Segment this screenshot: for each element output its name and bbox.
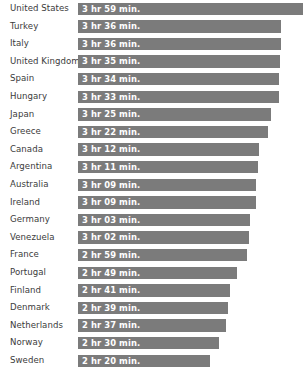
bar-value-label: 2 hr 37 min. [82,319,140,331]
bar-value-label: 3 hr 59 min. [82,3,140,15]
bar-value-label: 3 hr 02 min. [82,231,140,243]
chart-row: Japan3 hr 25 min. [0,106,305,124]
bar-value-label: 3 hr 22 min. [82,126,140,138]
chart-row: Spain3 hr 34 min. [0,70,305,88]
category-label: Sweden [10,352,44,370]
chart-row: Australia3 hr 09 min. [0,176,305,194]
category-label: Norway [10,334,43,352]
chart-row: Finland2 hr 41 min. [0,282,305,300]
bar-value-label: 3 hr 25 min. [82,108,140,120]
category-label: Spain [10,70,34,88]
chart-row: Greece3 hr 22 min. [0,123,305,141]
category-label: Italy [10,35,29,53]
chart-row: Portugal2 hr 49 min. [0,264,305,282]
bar: 3 hr 59 min. [78,3,303,15]
bar: 3 hr 33 min. [78,91,279,103]
bar: 3 hr 34 min. [78,73,279,85]
chart-row: Canada3 hr 12 min. [0,141,305,159]
chart-row: France2 hr 59 min. [0,246,305,264]
bar: 3 hr 12 min. [78,143,259,155]
bar-value-label: 3 hr 35 min. [82,55,140,67]
chart-row: Turkey3 hr 36 min. [0,18,305,36]
category-label: Hungary [10,88,47,106]
bar-track: 3 hr 36 min. [78,20,303,32]
category-label: Portugal [10,264,46,282]
chart-row: Sweden2 hr 20 min. [0,352,305,370]
bar: 3 hr 35 min. [78,55,280,67]
bar-track: 3 hr 22 min. [78,126,303,138]
bar-track: 3 hr 12 min. [78,143,303,155]
bar-value-label: 2 hr 20 min. [82,355,140,367]
bar-value-label: 3 hr 36 min. [82,38,140,50]
bar-track: 3 hr 03 min. [78,214,303,226]
category-label: Japan [10,106,34,124]
bar-track: 3 hr 11 min. [78,161,303,173]
horizontal-bar-chart: United States3 hr 59 min.Turkey3 hr 36 m… [0,0,305,382]
bar-value-label: 3 hr 03 min. [82,214,140,226]
category-label: France [10,246,39,264]
chart-row: Argentina3 hr 11 min. [0,158,305,176]
bar-track: 2 hr 20 min. [78,355,303,367]
bar-track: 3 hr 59 min. [78,3,303,15]
bar: 2 hr 41 min. [78,284,230,296]
bar: 2 hr 39 min. [78,302,228,314]
bar-value-label: 3 hr 33 min. [82,91,140,103]
bar-track: 2 hr 37 min. [78,319,303,331]
bar: 3 hr 02 min. [78,231,249,243]
chart-row: Denmark2 hr 39 min. [0,299,305,317]
category-label: Canada [10,141,43,159]
bar-track: 3 hr 33 min. [78,91,303,103]
bar-value-label: 3 hr 36 min. [82,20,140,32]
chart-row: United Kingdom3 hr 35 min. [0,53,305,71]
bar: 3 hr 09 min. [78,196,256,208]
bar-track: 2 hr 39 min. [78,302,303,314]
category-label: Netherlands [10,317,63,335]
category-label: Denmark [10,299,50,317]
category-label: Australia [10,176,48,194]
bar-track: 2 hr 41 min. [78,284,303,296]
bar-track: 3 hr 25 min. [78,108,303,120]
chart-row: Italy3 hr 36 min. [0,35,305,53]
chart-row: Ireland3 hr 09 min. [0,194,305,212]
bar-track: 2 hr 59 min. [78,249,303,261]
chart-row: United States3 hr 59 min. [0,0,305,18]
bar: 2 hr 20 min. [78,355,210,367]
bar: 2 hr 30 min. [78,337,219,349]
category-label: United Kingdom [10,53,80,71]
bar-value-label: 2 hr 49 min. [82,267,140,279]
bar-track: 3 hr 09 min. [78,179,303,191]
bar-track: 2 hr 49 min. [78,267,303,279]
chart-row: Hungary3 hr 33 min. [0,88,305,106]
bar-track: 3 hr 36 min. [78,38,303,50]
bar: 3 hr 09 min. [78,179,256,191]
category-label: Greece [10,123,41,141]
bar-value-label: 2 hr 41 min. [82,284,140,296]
bar: 3 hr 03 min. [78,214,250,226]
bar-track: 3 hr 34 min. [78,73,303,85]
bar: 2 hr 49 min. [78,267,237,279]
category-label: Turkey [10,18,38,36]
bar: 2 hr 37 min. [78,319,226,331]
category-label: Finland [10,282,41,300]
bar-value-label: 2 hr 39 min. [82,302,140,314]
category-label: Ireland [10,194,40,212]
bar: 2 hr 59 min. [78,249,247,261]
bar-value-label: 3 hr 12 min. [82,143,140,155]
chart-row: Venezuela3 hr 02 min. [0,229,305,247]
chart-row: Netherlands2 hr 37 min. [0,317,305,335]
category-label: Argentina [10,158,52,176]
bar: 3 hr 36 min. [78,20,281,32]
bar-value-label: 2 hr 30 min. [82,337,140,349]
chart-row: Germany3 hr 03 min. [0,211,305,229]
bar-track: 2 hr 30 min. [78,337,303,349]
bar-value-label: 3 hr 34 min. [82,73,140,85]
category-label: Germany [10,211,50,229]
bar-value-label: 3 hr 09 min. [82,196,140,208]
chart-row: Norway2 hr 30 min. [0,334,305,352]
bar-track: 3 hr 35 min. [78,55,303,67]
bar-value-label: 3 hr 11 min. [82,161,140,173]
bar-value-label: 2 hr 59 min. [82,249,140,261]
category-label: Venezuela [10,229,55,247]
bar: 3 hr 36 min. [78,38,281,50]
bar: 3 hr 11 min. [78,161,258,173]
